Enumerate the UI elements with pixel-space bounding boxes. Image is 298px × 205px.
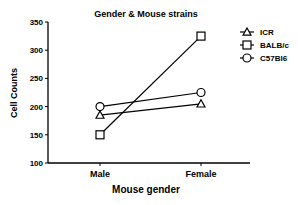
square-marker-icon: [96, 131, 104, 139]
series-line: [100, 104, 201, 115]
legend-label: C57Bl6: [260, 54, 288, 63]
legend-label: BALB/c: [260, 41, 289, 50]
legend-item: C57Bl6: [240, 54, 288, 63]
legend-label: ICR: [260, 28, 274, 37]
x-tick-label: Male: [90, 169, 110, 179]
y-axis-label: Cell Counts: [9, 68, 19, 118]
y-tick-label: 150: [30, 131, 44, 140]
series-icr: [96, 100, 205, 118]
series-line: [100, 93, 201, 107]
series-balb-c: [96, 32, 205, 139]
series-c57bl6: [96, 89, 205, 111]
circle-marker-icon: [96, 103, 104, 111]
y-tick-label: 250: [30, 74, 44, 83]
line-chart: Gender & Mouse strains 10015020025030035…: [0, 0, 298, 205]
series-line: [100, 36, 201, 135]
series-group: [96, 32, 205, 139]
square-marker-icon: [197, 32, 205, 40]
legend-item: BALB/c: [240, 41, 289, 50]
legend-item: ICR: [240, 28, 274, 37]
y-tick-label: 200: [30, 103, 44, 112]
chart-title: Gender & Mouse strains: [94, 9, 198, 19]
circle-legend-icon: [243, 54, 251, 62]
axes: 100150200250300350MaleFemale: [30, 18, 250, 179]
y-tick-label: 350: [30, 18, 44, 27]
y-tick-label: 100: [30, 159, 44, 168]
legend: ICRBALB/cC57Bl6: [240, 28, 289, 63]
square-legend-icon: [243, 41, 251, 49]
triangle-marker-icon: [197, 100, 205, 107]
x-tick-label: Female: [185, 169, 216, 179]
y-tick-label: 300: [30, 46, 44, 55]
x-axis-label: Mouse gender: [112, 184, 180, 195]
circle-marker-icon: [197, 89, 205, 97]
